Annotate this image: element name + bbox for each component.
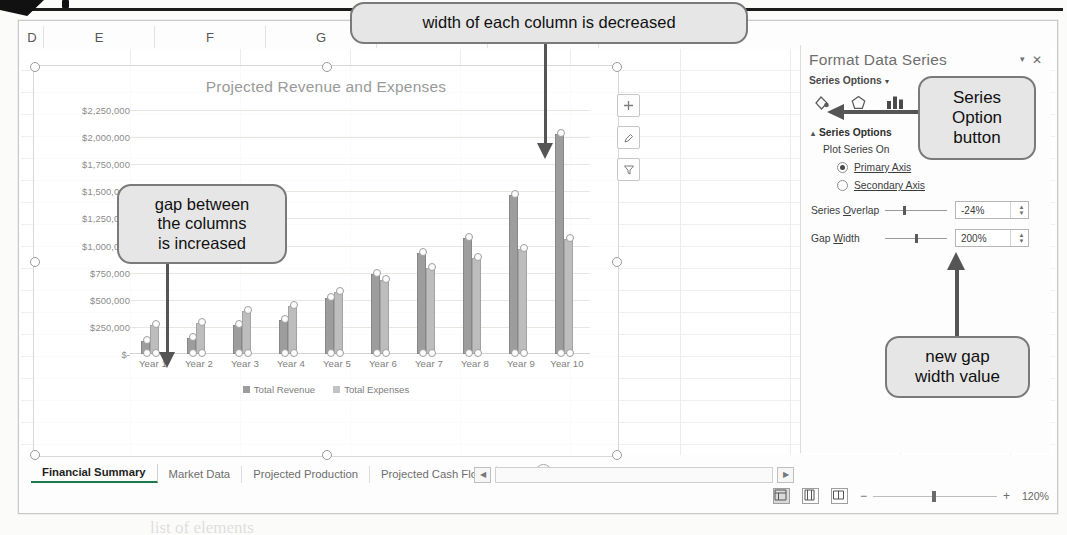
legend-swatch — [333, 386, 340, 393]
x-axis-tick-label: Year 4 — [268, 358, 314, 369]
legend-item[interactable]: Total Revenue — [243, 384, 315, 395]
secondary-axis-option[interactable]: Secondary Axis — [801, 173, 1051, 191]
series-overlap-slider[interactable] — [885, 205, 947, 215]
scroll-left-icon[interactable]: ◀ — [474, 467, 491, 483]
zoom-track[interactable] — [873, 496, 997, 497]
bar-expenses[interactable] — [518, 249, 527, 354]
scroll-right-icon[interactable]: ▶ — [777, 467, 794, 483]
series-overlap-spinner[interactable]: -24% ▲▼ — [955, 201, 1029, 219]
series-selection-handle[interactable] — [520, 349, 528, 357]
zoom-thumb[interactable] — [932, 491, 936, 502]
chart-handle-br[interactable] — [612, 450, 622, 460]
pane-title: Format Data Series — [801, 45, 1051, 69]
pane-subtitle-caret-icon[interactable]: ▾ — [885, 77, 889, 86]
bar-revenue[interactable] — [417, 253, 426, 354]
bar-group[interactable] — [314, 110, 360, 354]
x-axis-labels: Year 1Year 2Year 3Year 4Year 5Year 6Year… — [130, 358, 590, 369]
zoom-out-button[interactable]: − — [860, 489, 867, 503]
sheet-tab-financial-summary[interactable]: Financial Summary — [31, 464, 158, 483]
x-axis-tick-label: Year 6 — [360, 358, 406, 369]
column-header-F[interactable]: F — [155, 26, 266, 48]
series-selection-handle[interactable] — [336, 349, 344, 357]
series-selection-handle[interactable] — [511, 190, 519, 198]
horizontal-scrollbar[interactable]: ◀ ▶ — [474, 466, 794, 483]
gap-width-spinner[interactable]: 200% ▲▼ — [955, 229, 1029, 247]
callout-arrow-gap-columns — [166, 262, 169, 360]
status-bar: − + 120% — [773, 485, 1049, 507]
chart-title[interactable]: Projected Revenue and Expenses — [34, 78, 618, 96]
y-axis-tick-label: $1,750,000 — [82, 159, 130, 170]
legend-label: Total Revenue — [254, 384, 315, 395]
sheet-tab-projected-production[interactable]: Projected Production — [242, 466, 370, 483]
bar-expenses[interactable] — [564, 239, 573, 354]
bar-revenue[interactable] — [509, 195, 518, 354]
series-selection-handle[interactable] — [198, 318, 206, 326]
zoom-level-label[interactable]: 120% — [1022, 490, 1049, 502]
chart-handle-ml[interactable] — [30, 257, 40, 267]
gap-width-slider[interactable] — [885, 233, 947, 243]
column-header-D[interactable]: D — [21, 26, 44, 48]
chart-handle-bc[interactable] — [322, 450, 332, 460]
legend-item[interactable]: Total Expenses — [333, 384, 409, 395]
chart-styles-icon[interactable] — [617, 126, 640, 149]
chart-handle-bl[interactable] — [30, 450, 40, 460]
series-selection-handle[interactable] — [152, 320, 160, 328]
column-header-E[interactable]: E — [44, 26, 155, 48]
secondary-axis-radio[interactable] — [837, 180, 848, 191]
series-overlap-spin-arrows[interactable]: ▲▼ — [1010, 202, 1027, 218]
series-selection-handle[interactable] — [244, 306, 252, 314]
section-collapse-icon[interactable]: ▴ — [811, 129, 815, 138]
bar-expenses[interactable] — [472, 258, 481, 355]
series-selection-handle[interactable] — [428, 349, 436, 357]
bar-expenses[interactable] — [380, 280, 389, 354]
series-selection-handle[interactable] — [419, 248, 427, 256]
chart-side-buttons — [617, 94, 640, 181]
series-selection-handle[interactable] — [290, 349, 298, 357]
bar-group[interactable] — [406, 110, 452, 354]
chart-handle-tc[interactable] — [322, 62, 332, 72]
normal-view-icon[interactable] — [773, 488, 790, 504]
bar-expenses[interactable] — [242, 311, 251, 354]
series-selection-handle[interactable] — [373, 269, 381, 277]
chart-handle-tr[interactable] — [612, 62, 622, 72]
series-overlap-label: Series Overlap — [811, 205, 885, 216]
chart-elements-icon[interactable] — [617, 94, 640, 117]
bar-group[interactable] — [452, 110, 498, 354]
series-selection-handle[interactable] — [474, 253, 482, 261]
bar-group[interactable] — [360, 110, 406, 354]
scroll-track[interactable] — [495, 467, 773, 483]
x-axis-tick-label: Year 10 — [544, 358, 590, 369]
series-selection-handle[interactable] — [244, 349, 252, 357]
zoom-in-button[interactable]: + — [1003, 489, 1010, 503]
zoom-slider[interactable]: − + — [860, 489, 1010, 503]
bar-expenses[interactable] — [334, 292, 343, 354]
primary-axis-radio[interactable] — [837, 162, 848, 173]
bar-expenses[interactable] — [288, 306, 297, 354]
series-selection-handle[interactable] — [474, 349, 482, 357]
chart-handle-tl[interactable] — [30, 62, 40, 72]
bar-revenue[interactable] — [371, 274, 380, 354]
bar-revenue[interactable] — [325, 298, 334, 354]
pane-close-icon[interactable]: ✕ — [1032, 53, 1042, 67]
page-break-view-icon[interactable] — [831, 488, 848, 504]
chart-handle-mr[interactable] — [612, 257, 622, 267]
series-selection-handle[interactable] — [198, 349, 206, 357]
page-layout-view-icon[interactable] — [802, 488, 819, 504]
chart-legend[interactable]: Total RevenueTotal Expenses — [34, 384, 618, 395]
bar-expenses[interactable] — [426, 268, 435, 354]
x-axis-tick-label: Year 9 — [498, 358, 544, 369]
series-selection-handle[interactable] — [566, 349, 574, 357]
chart-object[interactable]: Projected Revenue and Expenses $2,250,00… — [33, 65, 619, 457]
sheet-tab-market-data[interactable]: Market Data — [158, 466, 243, 483]
series-selection-handle[interactable] — [465, 233, 473, 241]
callout-series-option: Series Option button — [918, 76, 1036, 160]
series-selection-handle[interactable] — [382, 349, 390, 357]
pane-options-caret-icon[interactable]: ▾ — [1020, 54, 1025, 64]
page-corner-dot — [62, 0, 69, 8]
gap-width-control: Gap Width 200% ▲▼ — [801, 219, 1051, 247]
chart-filters-icon[interactable] — [617, 158, 640, 181]
series-selection-handle[interactable] — [520, 244, 528, 252]
bar-revenue[interactable] — [555, 134, 564, 354]
bar-revenue[interactable] — [463, 238, 472, 354]
gap-width-spin-arrows[interactable]: ▲▼ — [1010, 230, 1027, 246]
